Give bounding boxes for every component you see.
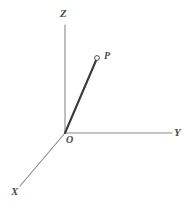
axes-drawing (0, 0, 193, 208)
x-axis-line (20, 133, 65, 186)
point-p-label: P (104, 51, 110, 61)
coordinate-axes-figure: Z Y X O P (0, 0, 193, 208)
z-axis-label: Z (60, 8, 67, 19)
origin-label: O (66, 135, 73, 145)
point-p-marker (95, 56, 100, 61)
x-axis-label: X (11, 186, 18, 197)
segment-op (65, 61, 96, 134)
y-axis-label: Y (174, 127, 181, 138)
